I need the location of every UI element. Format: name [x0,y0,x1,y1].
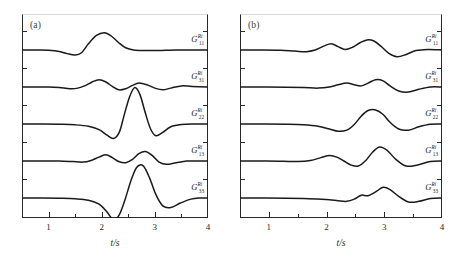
x-tickmark [181,214,182,217]
trace-label-31: GRi31 [425,72,438,81]
x-tickmark [75,214,76,217]
x-tickmark [155,212,156,217]
y-tickmark [23,179,27,180]
y-tickmark [203,68,207,69]
y-tickmark [241,68,245,69]
y-tickmark [437,179,441,180]
y-tickmark [437,105,441,106]
y-tickmark [203,31,207,32]
x-tickmark [384,212,385,217]
x-tickmark [413,214,414,217]
trace-label-11: GRi11 [191,35,204,44]
y-tickmark [203,179,207,180]
trace-label-13: GRi13 [191,146,204,155]
trace-label-13: GRi13 [425,146,438,155]
panel-b: (b) GRi11GRi31GRi22GRi13GRi33 [240,14,442,218]
y-tickmark [241,179,245,180]
figure-root: (a) GRi11GRi31GRi22GRi13GRi33 1234t/s (b… [0,0,456,272]
x-tick-label: 4 [440,222,445,232]
y-tickmark [203,142,207,143]
y-tickmark [241,105,245,106]
trace-label-33: GRi33 [425,183,438,192]
panel-a: (a) GRi11GRi31GRi22GRi13GRi33 [22,14,208,218]
x-axis-title: t/s [337,238,346,248]
y-tickmark [23,68,27,69]
x-tickmark [327,212,328,217]
panel-a-traces [22,14,208,218]
trace-label-22: GRi22 [191,109,204,118]
y-tickmark [23,31,27,32]
panel-a-tag: (a) [30,20,41,30]
trace-label-22: GRi22 [425,109,438,118]
y-tickmark [241,31,245,32]
x-tick-label: 4 [206,222,211,232]
x-tick-label: 3 [153,222,158,232]
y-tickmark [23,142,27,143]
y-tickmark [437,31,441,32]
x-tickmark [298,214,299,217]
x-tick-label: 3 [382,222,387,232]
x-tick-label: 2 [99,222,104,232]
trace-label-31: GRi31 [191,72,204,81]
trace-line [240,187,442,202]
x-tickmark [269,212,270,217]
x-tick-label: 1 [267,222,272,232]
trace-line [22,165,208,218]
trace-label-33: GRi33 [191,183,204,192]
x-tick-label: 1 [46,222,51,232]
trace-line [240,147,442,166]
x-tickmark [355,214,356,217]
y-tickmark [23,105,27,106]
trace-line [240,40,442,57]
x-tick-label: 2 [324,222,329,232]
y-tickmark [241,142,245,143]
y-tickmark [437,142,441,143]
trace-line [22,80,208,90]
x-tickmark [128,214,129,217]
trace-line [22,88,208,139]
x-axis-title: t/s [111,238,120,248]
panel-b-traces [240,14,442,218]
trace-line [22,33,208,55]
x-tickmark [102,212,103,217]
trace-line [240,80,442,93]
y-tickmark [203,105,207,106]
x-tickmark [49,212,50,217]
trace-label-11: GRi11 [425,35,438,44]
panel-b-tag: (b) [248,20,260,30]
trace-line [240,110,442,132]
trace-line [22,151,208,164]
y-tickmark [437,68,441,69]
